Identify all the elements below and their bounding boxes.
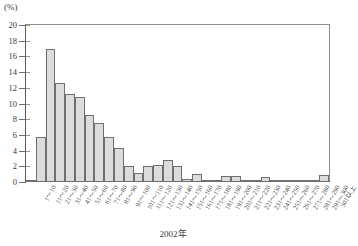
histogram-bar [280, 180, 290, 182]
bars-container [26, 25, 329, 182]
histogram-bar [75, 97, 85, 182]
histogram-bar [85, 115, 95, 182]
y-axis-tick-label: 2 [13, 161, 17, 171]
histogram-bar [290, 180, 300, 182]
histogram-bar [134, 173, 144, 182]
histogram-bar [192, 174, 202, 182]
y-axis-tick: 0 [19, 182, 26, 183]
y-axis-tick-label: 6 [13, 130, 17, 140]
histogram-bar [55, 83, 65, 182]
y-axis-tick-label: 4 [13, 146, 17, 156]
y-axis-tick-label: 0 [13, 177, 17, 187]
y-axis-tick-label: 20 [9, 20, 18, 30]
histogram-bar [114, 148, 124, 182]
y-axis-tick-label: 14 [9, 67, 18, 77]
histogram-bar [65, 94, 75, 182]
histogram-bar [202, 180, 212, 182]
histogram-bar [36, 137, 46, 182]
y-axis-unit-label: (%) [4, 2, 18, 13]
histogram-bar [270, 180, 280, 182]
histogram-bar [46, 49, 56, 182]
histogram-bar [94, 123, 104, 182]
histogram-bar [231, 176, 241, 182]
histogram-bar [124, 166, 134, 182]
histogram-bar [261, 177, 271, 182]
y-axis-tick-label: 10 [9, 99, 18, 109]
histogram-bar [241, 180, 251, 182]
histogram-bar [212, 180, 222, 182]
histogram-bar [173, 166, 183, 182]
histogram-bar [143, 166, 153, 182]
y-axis-tick-label: 8 [13, 114, 17, 124]
chart-caption: 2002年 [0, 228, 346, 240]
histogram-bar [300, 180, 310, 182]
histogram-bar [251, 180, 261, 182]
histogram-bar [221, 176, 231, 182]
histogram-bar [309, 180, 319, 182]
y-axis-tick-label: 16 [9, 51, 18, 61]
histogram-bar [104, 137, 114, 182]
y-axis-tick-label: 18 [9, 36, 18, 46]
histogram-bar [26, 180, 36, 182]
histogram-bar [153, 165, 163, 182]
y-axis-tick-label: 12 [9, 83, 18, 93]
histogram-bar [182, 179, 192, 182]
histogram-bar [319, 175, 329, 182]
histogram-bar [163, 160, 173, 182]
